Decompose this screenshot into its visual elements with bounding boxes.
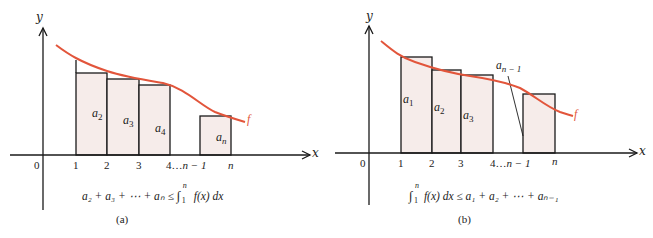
label-sub: 3 <box>129 119 134 129</box>
panel-b-curve-label: f <box>574 107 577 122</box>
formula-a-rhs: f(x) dx <box>191 190 224 202</box>
panel-a-tick-4-range: 4…n − 1 <box>166 159 206 171</box>
panel-b-tick-1: 1 <box>398 157 404 169</box>
panel-b-x-label: x <box>639 144 646 158</box>
panel-a <box>10 28 310 210</box>
integral-lower: 1 <box>414 196 418 205</box>
integral-upper: n <box>183 181 187 190</box>
panel-b-tick-n: n <box>552 155 558 167</box>
label-sub: 1 <box>409 98 414 108</box>
rect-a4 <box>139 85 170 155</box>
label-sub: 4 <box>161 127 166 137</box>
formula-b-rhs: f(x) dx ≤ a₁ + a₂ + ⋯ + aₙ₋₁ <box>421 190 558 202</box>
panel-a-tick-nm1: n − 1 <box>183 159 207 171</box>
formula-a-lhs: a₂ + a₃ + ⋯ + aₙ ≤ <box>82 190 177 202</box>
panel-a-tick-n: n <box>228 159 234 171</box>
panel-a-tick-1: 1 <box>73 159 79 171</box>
panel-a-origin-label: 0 <box>34 159 40 171</box>
panel-b-rect-label-a2: a2 <box>434 100 445 116</box>
panel-a-caption: (a) <box>116 213 128 225</box>
panel-b-rectangles <box>401 57 555 153</box>
label-sub: 3 <box>469 114 474 124</box>
panel-b-ellipsis: … <box>496 157 507 169</box>
panel-b-rect-label-a3: a3 <box>463 108 474 124</box>
label-sub: 2 <box>98 112 103 122</box>
panel-a-rect-label-a2: a2 <box>92 106 103 122</box>
panel-a-x-label: x <box>312 146 319 160</box>
integral-upper: n <box>415 181 419 190</box>
panel-a-rect-label-an: an <box>216 130 227 146</box>
panel-b-caption: (b) <box>458 213 471 225</box>
integral-lower: 1 <box>182 196 186 205</box>
panel-b-y-label: y <box>366 9 373 23</box>
panel-a-tick-2: 2 <box>104 159 110 171</box>
panel-a-y-label: y <box>36 10 43 24</box>
panel-b <box>335 26 637 205</box>
label-sub: 2 <box>440 106 445 116</box>
label-sub: n − 1 <box>502 64 522 74</box>
panel-b-callout-label: an − 1 <box>496 59 521 74</box>
panel-b-tick-4-range: 4…n − 1 <box>490 157 530 169</box>
panel-b-rect-label-a1: a1 <box>403 92 414 108</box>
panel-b-tick-nm1: n − 1 <box>507 157 531 169</box>
integral-sign: ∫ n 1 <box>177 188 191 204</box>
panel-b-tick-3: 3 <box>458 157 464 169</box>
rect-an-1 <box>523 94 555 153</box>
integral-sign: ∫ n 1 <box>409 188 421 204</box>
panel-b-tick-2: 2 <box>429 157 435 169</box>
panel-b-formula: ∫ n 1 f(x) dx ≤ a₁ + a₂ + ⋯ + aₙ₋₁ <box>409 188 558 204</box>
panel-a-curve-label: f <box>247 112 250 127</box>
panel-b-origin-label: 0 <box>360 157 366 169</box>
panel-a-tick-3: 3 <box>136 159 142 171</box>
panel-a-ellipsis: … <box>172 159 183 171</box>
panel-a-formula: a₂ + a₃ + ⋯ + aₙ ≤ ∫ n 1 f(x) dx <box>82 188 223 204</box>
integral-glyph: ∫ <box>409 188 413 203</box>
label-sub: n <box>222 136 227 146</box>
integral-glyph: ∫ <box>177 188 181 203</box>
panel-a-rect-label-a3: a3 <box>123 113 134 129</box>
panel-a-rect-label-a4: a4 <box>155 121 166 137</box>
